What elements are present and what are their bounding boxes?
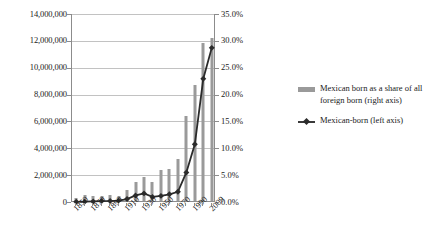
right-axis-tick: [215, 14, 219, 15]
left-axis-tick-label: 6,000,000: [0, 117, 67, 126]
left-axis-tick: [67, 95, 71, 96]
bar-swatch-icon: [298, 86, 315, 94]
left-axis-tick: [67, 175, 71, 176]
left-axis-tick-label: 4,000,000: [0, 144, 67, 153]
x-axis-tick: [135, 203, 136, 206]
left-axis-tick: [67, 148, 71, 149]
right-axis-tick: [215, 68, 219, 69]
right-axis-tick-label: 15.0%: [221, 117, 243, 126]
left-axis-tick-label: 8,000,000: [0, 90, 67, 99]
left-axis-tick-label: 14,000,000: [0, 10, 67, 19]
right-axis-tick: [215, 121, 219, 122]
x-axis-tick: [118, 203, 119, 206]
right-axis-tick-label: 30.0%: [221, 36, 243, 45]
legend-label-share: Mexican born as a share of all foreign b…: [320, 83, 438, 106]
right-axis-tick: [215, 175, 219, 176]
data-point-marker: [192, 141, 198, 147]
x-axis-tick: [101, 203, 102, 206]
left-axis-tick-label: 2,000,000: [0, 171, 67, 180]
chart-container: 02,000,0004,000,0006,000,0008,000,00010,…: [0, 0, 444, 248]
x-axis-tick: [84, 203, 85, 206]
data-point-marker: [200, 76, 206, 82]
right-axis-tick-label: 5.0%: [221, 171, 239, 180]
plot-area: [71, 14, 215, 202]
legend-item-share: Mexican born as a share of all foreign b…: [298, 83, 438, 106]
left-axis-tick: [67, 68, 71, 69]
x-axis-tick: [168, 203, 169, 206]
line-diamond-swatch-icon: [298, 118, 315, 126]
right-axis-tick: [215, 41, 219, 42]
right-axis-tick-label: 10.0%: [221, 144, 243, 153]
x-axis-tick: [185, 203, 186, 206]
x-axis-tick: [202, 203, 203, 206]
legend-item-population: Mexican-born (left axis): [298, 115, 438, 127]
legend-label-population: Mexican-born (left axis): [320, 115, 438, 127]
right-axis-tick-label: 35.0%: [221, 10, 243, 19]
left-axis-tick: [67, 121, 71, 122]
data-point-marker: [209, 45, 215, 51]
data-point-marker: [141, 190, 147, 196]
data-point-marker: [183, 170, 189, 176]
line-path: [72, 14, 216, 202]
x-axis-tick: [151, 203, 152, 206]
chart-legend: Mexican born as a share of all foreign b…: [298, 83, 438, 136]
x-axis-labels: 185018701890191019301950197019902009: [71, 203, 215, 247]
left-axis-tick-label: 10,000,000: [0, 63, 67, 72]
left-axis-tick-label: 12,000,000: [0, 36, 67, 45]
line-series-layer: [72, 14, 214, 201]
left-axis-tick: [67, 14, 71, 15]
left-axis-tick: [67, 41, 71, 42]
right-axis-tick-label: 25.0%: [221, 63, 243, 72]
right-axis-tick: [215, 95, 219, 96]
right-axis-tick: [215, 148, 219, 149]
right-axis-tick-label: 20.0%: [221, 90, 243, 99]
left-axis-tick-label: 0: [0, 198, 67, 207]
data-point-marker: [175, 189, 181, 195]
